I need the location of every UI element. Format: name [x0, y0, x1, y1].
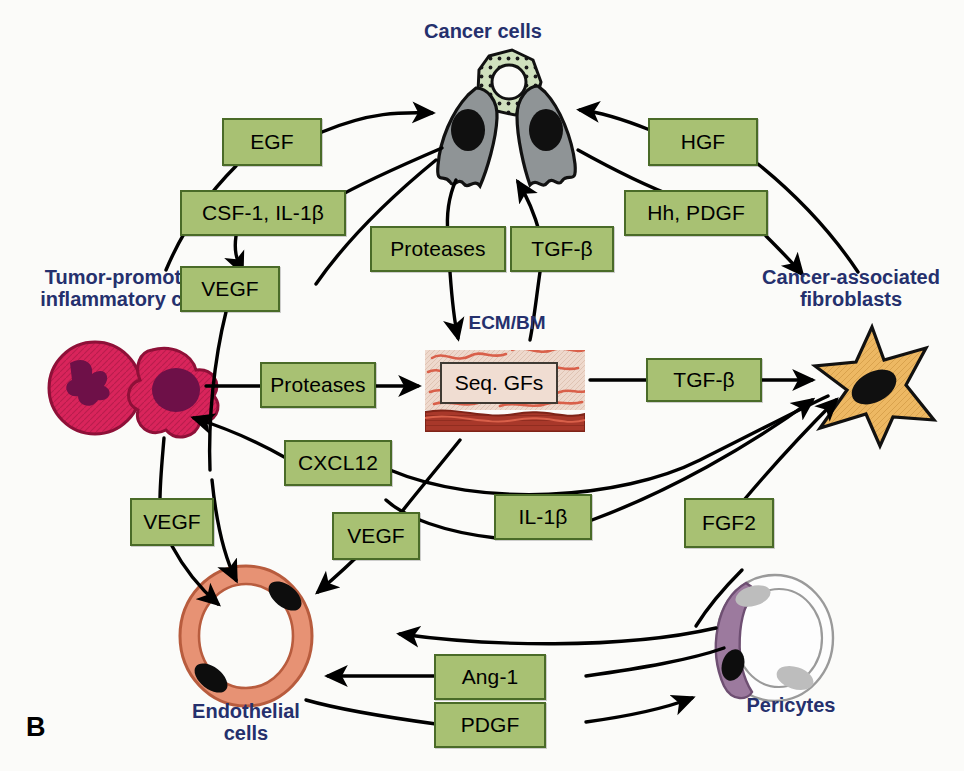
caption-endothelial-cells: Endothelial cells [156, 700, 336, 745]
ligand-box-il1b[interactable]: IL-1β [494, 494, 592, 540]
arrow-egf-to-cancer [322, 113, 432, 132]
arrow-hgf-tail [758, 164, 858, 272]
ligand-box-pdgf[interactable]: PDGF [434, 702, 546, 748]
caption-cancer-cells: Cancer cells [398, 20, 568, 42]
ligand-box-vegf-left[interactable]: VEGF [130, 498, 214, 546]
panel-letter-b: B [26, 712, 46, 743]
caption-fibroblasts: Cancer-associated fibroblasts [742, 266, 960, 311]
ligand-box-hgf[interactable]: HGF [648, 118, 758, 166]
ligand-box-ang1[interactable]: Ang-1 [434, 654, 546, 700]
ligand-box-vegf-upper[interactable]: VEGF [180, 266, 280, 312]
ligand-box-proteases-upper[interactable]: Proteases [370, 226, 506, 272]
fibroblast-graphic [815, 327, 934, 446]
inflammatory-cells-graphic [49, 342, 218, 437]
arrow-ang1-tail [586, 648, 724, 676]
ligand-box-tgfb-mid[interactable]: TGF-β [646, 358, 762, 402]
pericyte-graphic [716, 575, 833, 701]
arrow-vegf-left-tail [160, 438, 164, 500]
arrow-hgf-to-cancer [580, 110, 650, 130]
caption-ecm-bm: ECM/BM [442, 312, 572, 333]
ligand-box-egf[interactable]: EGF [222, 118, 322, 166]
ligand-box-hh-pdgf[interactable]: Hh, PDGF [624, 190, 768, 236]
ligand-box-vegf-mid[interactable]: VEGF [332, 512, 420, 560]
arrow-vegf-upper-to-endothelial [212, 480, 236, 580]
arrow-vegf-upper-down [210, 312, 226, 470]
arrow-pericyte-to-endothelial [400, 628, 716, 644]
ligand-box-csf1-il1b[interactable]: CSF-1, IL-1β [180, 190, 346, 236]
arrow-cxcl12-to-inflammatory [194, 418, 286, 458]
ligand-box-seq-gfs[interactable]: Seq. GFs [440, 362, 558, 404]
ligand-box-tgfb-upper[interactable]: TGF-β [510, 226, 614, 272]
ligand-box-fgf2[interactable]: FGF2 [684, 498, 774, 548]
ligand-box-cxcl12[interactable]: CXCL12 [284, 440, 392, 486]
tumor-microenvironment-figure: Cancer cells Tumor-promoting inflammator… [0, 0, 964, 771]
cancer-cells-graphic [438, 50, 576, 186]
arrow-pdgf-to-pericyte [586, 698, 692, 722]
arrow-csf1-from-cancer [332, 148, 442, 200]
ligand-box-proteases-mid[interactable]: Proteases [260, 362, 376, 408]
caption-pericytes: Pericytes [716, 694, 866, 716]
